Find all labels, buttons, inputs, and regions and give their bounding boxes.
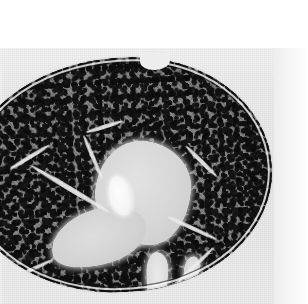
photomicrograph-figure xyxy=(0,0,308,304)
tissue-section xyxy=(0,50,278,301)
field-right-fade xyxy=(274,48,308,304)
